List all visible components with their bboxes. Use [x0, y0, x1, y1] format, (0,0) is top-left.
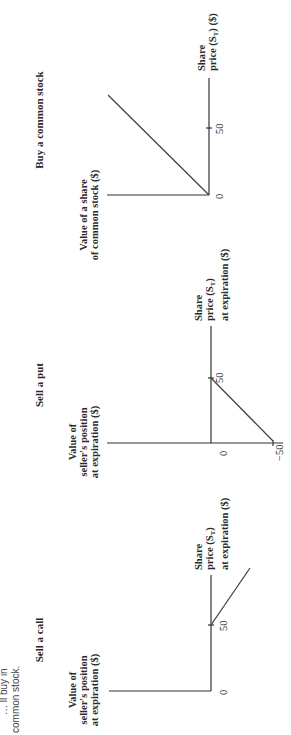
call-panel-title: Sell a call — [34, 600, 45, 680]
call-y-axis-label: Value of seller's position at expiration… — [67, 645, 100, 735]
call-tick-label-50: 50 — [218, 621, 229, 632]
stock-value-line — [108, 95, 209, 195]
put-tick-label-neg50: −50 — [274, 445, 285, 461]
stock-tick-label-0: 0 — [214, 194, 225, 199]
stock-tick-label-50: 50 — [214, 124, 225, 135]
rotated-figure: … ll buy in common stock. Sell a call Va… — [0, 0, 291, 735]
stock-x-axis-label: Share price (ST) ($) — [196, 13, 222, 71]
stock-y-axis-label: Value of a share of common stock ($) — [78, 165, 100, 265]
put-tick-label-0: 0 — [218, 451, 229, 456]
call-payoff-line — [211, 568, 250, 625]
put-y-axis-label: Value of seller's position at expiration… — [67, 397, 100, 487]
put-panel-title: Sell a put — [34, 345, 45, 425]
stock-panel-title: Buy a common stock — [34, 65, 45, 175]
put-payoff-line — [211, 378, 273, 441]
put-tick-label-50: 50 — [214, 373, 225, 384]
call-x-axis-label: Share price (ST) at expiration ($) — [193, 498, 230, 570]
put-x-axis-label: Share price (ST) at expiration ($) — [193, 249, 230, 321]
call-tick-label-0: 0 — [218, 690, 229, 695]
